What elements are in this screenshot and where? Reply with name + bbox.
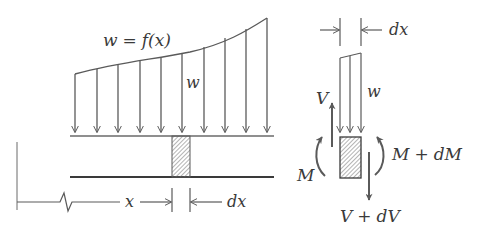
moment-left-arrow bbox=[316, 137, 325, 176]
load-intensity-label: w bbox=[186, 73, 200, 92]
beam-element-hatched bbox=[172, 136, 190, 177]
beam-diagram: w=f(x) w x dx dx w bbox=[0, 0, 479, 237]
element-fbd: dx w V V+dV M M+dM bbox=[296, 18, 463, 226]
position-x-label: x bbox=[125, 192, 134, 211]
shear-right-label: V+dV bbox=[340, 206, 401, 226]
element-dx-label: dx bbox=[227, 192, 246, 211]
x-dimension bbox=[17, 188, 222, 212]
moment-right-label: M+dM bbox=[391, 144, 463, 164]
fbd-load-label: w bbox=[367, 82, 381, 101]
beam bbox=[70, 136, 274, 177]
fbd-dx-dimension bbox=[320, 18, 382, 46]
moment-right-arrow bbox=[375, 137, 384, 175]
fbd-load bbox=[340, 53, 361, 132]
load-function-label: w=f(x) bbox=[103, 30, 171, 50]
moment-left-label: M bbox=[296, 165, 315, 185]
shear-left-label: V bbox=[316, 88, 330, 108]
fbd-element-hatched bbox=[340, 137, 361, 178]
fbd-dx-label: dx bbox=[389, 20, 408, 39]
